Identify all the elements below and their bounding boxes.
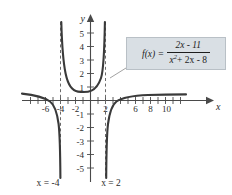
y-axis (87, 14, 94, 182)
y-tick-label-minus2: -2 (77, 123, 85, 133)
graph-canvas: -6 -4 -2 2 6 8 10 1 2 3 4 5 -1 -2 -3 -4 … (0, 0, 232, 195)
formula-denominator-rest: + 2x - 8 (177, 55, 207, 65)
y-tick-label-minus1: -1 (77, 110, 85, 120)
x-tick-label-minus6: -6 (42, 104, 50, 114)
y-axis-arrow-icon (87, 14, 94, 22)
formula-denominator: x2+ 2x - 8 (167, 52, 210, 66)
y-tick-label-minus4: -4 (77, 150, 85, 160)
y-tick-label-minus3: -3 (77, 137, 85, 147)
rational-function-figure: -6 -4 -2 2 6 8 10 1 2 3 4 5 -1 -2 -3 -4 … (0, 0, 232, 195)
y-tick-label-5: 5 (80, 29, 85, 39)
x-axis-arrow-icon (206, 97, 214, 104)
x-tick-label-6: 6 (133, 104, 138, 114)
formula-fraction: 2x - 11 x2+ 2x - 8 (167, 41, 210, 66)
formula-equals-sign: = (157, 49, 164, 59)
asymptote-label-right: x = 2 (101, 178, 121, 188)
y-axis-name-label: y (80, 13, 86, 24)
y-tick-label-3: 3 (80, 56, 85, 66)
formula-numerator: 2x - 11 (172, 41, 204, 52)
asymptote-label-left: x = -4 (37, 178, 60, 188)
x-axis-name-label: x (215, 101, 221, 112)
formula-function-name: f(x) (142, 49, 155, 59)
y-tick-label-minus5: -5 (77, 164, 85, 174)
x-tick-label-10: 10 (162, 104, 172, 114)
x-tick-label-8: 8 (148, 104, 153, 114)
formula-content: f(x) = 2x - 11 x2+ 2x - 8 (126, 37, 226, 70)
callout-leader-line (110, 68, 126, 78)
curve-right-branch (106, 94, 186, 178)
y-tick-label-4: 4 (80, 42, 85, 52)
y-tick-label-2: 2 (80, 69, 85, 79)
